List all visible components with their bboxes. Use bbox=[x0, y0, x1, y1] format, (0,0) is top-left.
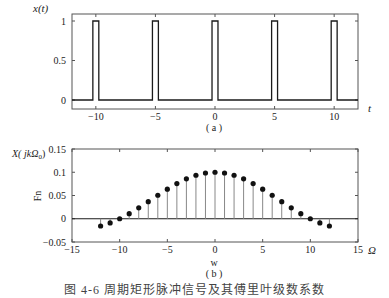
stem-marker bbox=[165, 187, 170, 192]
stem-marker bbox=[136, 205, 141, 210]
x-tick-label: 10 bbox=[305, 244, 315, 255]
stem-marker bbox=[231, 173, 236, 178]
stem-marker bbox=[193, 173, 198, 178]
stem-marker bbox=[203, 170, 208, 175]
bottom-ylabel-main: X( jkΩ bbox=[11, 148, 38, 160]
y-tick-label: 1 bbox=[61, 16, 66, 27]
top-plot-frame bbox=[72, 14, 358, 109]
x-tick-label: −5 bbox=[162, 244, 173, 255]
bottom-y-axis-label-top: X( jkΩ0) bbox=[11, 148, 45, 161]
x-tick-label: 5 bbox=[260, 244, 265, 255]
x-tick-label: 10 bbox=[329, 111, 339, 122]
y-tick-label: 0.15 bbox=[49, 144, 67, 155]
bottom-subcaption: ( b ) bbox=[206, 268, 223, 280]
stem-marker bbox=[308, 216, 313, 221]
y-tick-label: 0 bbox=[61, 95, 66, 106]
stem-marker bbox=[98, 223, 103, 228]
stem-marker bbox=[270, 193, 275, 198]
figure-caption: 图 4-6 周期矩形脉冲信号及其傅里叶级数系数 bbox=[0, 280, 389, 298]
x-tick-label: 5 bbox=[272, 111, 277, 122]
stem-marker bbox=[117, 216, 122, 221]
stem-marker bbox=[260, 187, 265, 192]
stem-marker bbox=[212, 170, 217, 175]
stem-marker bbox=[155, 193, 160, 198]
x-tick-label: −15 bbox=[64, 244, 80, 255]
bottom-x-axis-right-label: Ω bbox=[368, 244, 376, 256]
stem-marker bbox=[289, 205, 294, 210]
x-tick-label: −10 bbox=[112, 244, 128, 255]
x-tick-label: 0 bbox=[213, 111, 218, 122]
stem-marker bbox=[184, 176, 189, 181]
x-tick-label: 0 bbox=[213, 244, 218, 255]
stem-marker bbox=[174, 181, 179, 186]
pulse-train-line bbox=[72, 21, 358, 100]
x-tick-label: −5 bbox=[150, 111, 161, 122]
bottom-ylabel-close: ) bbox=[42, 148, 45, 160]
stem-marker bbox=[251, 181, 256, 186]
stem-marker bbox=[241, 176, 246, 181]
y-tick-label: 0.5 bbox=[54, 55, 67, 66]
bottom-x-axis-label: w bbox=[210, 257, 218, 268]
top-x-axis-label: t bbox=[368, 102, 372, 114]
stem-marker bbox=[327, 223, 332, 228]
y-tick-label: 0.05 bbox=[49, 190, 67, 201]
stem-marker bbox=[298, 211, 303, 216]
bottom-y-axis-side-label: Fn bbox=[32, 191, 43, 202]
y-tick-label: 0.1 bbox=[54, 167, 67, 178]
y-tick-label: −0.05 bbox=[43, 237, 66, 248]
bottom-plot-fourier-coefficients: −15−10−5051015−0.0500.050.10.15 bbox=[43, 144, 363, 256]
x-tick-label: 15 bbox=[353, 244, 363, 255]
top-subcaption: ( a ) bbox=[206, 122, 222, 134]
y-tick-label: 0 bbox=[61, 213, 66, 224]
x-tick-label: −10 bbox=[88, 111, 104, 122]
stem-marker bbox=[279, 199, 284, 204]
stem-marker bbox=[222, 170, 227, 175]
stem-marker bbox=[317, 220, 322, 225]
stem-marker bbox=[108, 220, 113, 225]
top-plot-pulse-train: −10−5051000.51 bbox=[54, 14, 359, 122]
stem-marker bbox=[146, 199, 151, 204]
stem-marker bbox=[127, 211, 132, 216]
top-y-axis-label: x(t) bbox=[32, 2, 49, 15]
